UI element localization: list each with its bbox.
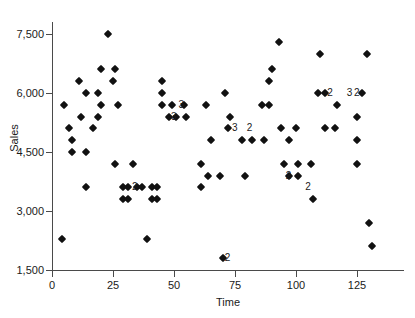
overlap-count-label: 2 <box>354 88 360 98</box>
data-point <box>333 101 341 109</box>
data-point <box>353 136 361 144</box>
data-point <box>248 136 256 144</box>
data-point <box>123 183 131 191</box>
data-point <box>109 77 117 85</box>
data-point <box>226 112 234 120</box>
overlap-count-label: 2 <box>305 182 311 192</box>
data-point <box>153 195 161 203</box>
x-tick-0 <box>52 271 53 277</box>
data-point <box>201 101 209 109</box>
y-tick-label: 6,000 <box>0 88 44 99</box>
overlap-count-label: 3 <box>347 88 353 98</box>
data-point <box>241 171 249 179</box>
data-point <box>82 183 90 191</box>
x-tick-label: 125 <box>337 280 377 291</box>
data-point <box>260 136 268 144</box>
overlap-count-label: 2 <box>225 253 231 263</box>
x-tick-label: 75 <box>215 280 255 291</box>
data-point <box>94 112 102 120</box>
data-point <box>111 65 119 73</box>
data-point <box>309 195 317 203</box>
data-point <box>197 160 205 168</box>
data-point <box>58 234 66 242</box>
data-point <box>82 89 90 97</box>
data-point <box>82 148 90 156</box>
overlap-count-label: 2 <box>247 123 253 133</box>
x-tick-50 <box>174 271 175 277</box>
x-tick-75 <box>235 271 236 277</box>
data-point <box>216 171 224 179</box>
y-tick-label: 4,500 <box>0 147 44 158</box>
overlap-count-label: 2 <box>286 171 292 181</box>
data-point <box>65 124 73 132</box>
data-point <box>158 101 166 109</box>
data-point <box>94 89 102 97</box>
data-point <box>265 101 273 109</box>
data-point <box>292 124 300 132</box>
data-point <box>294 171 302 179</box>
y-tick-7500 <box>46 34 52 35</box>
data-point <box>158 77 166 85</box>
data-point <box>111 160 119 168</box>
y-tick-4500 <box>46 152 52 153</box>
data-point <box>306 160 314 168</box>
data-point <box>104 30 112 38</box>
data-point <box>223 124 231 132</box>
scatter-plot-figure: 1,5003,0004,5006,0007,500 0255075100125 … <box>0 0 415 318</box>
data-point <box>267 65 275 73</box>
data-point <box>67 136 75 144</box>
overlap-count-label: 2 <box>132 182 138 192</box>
x-axis-title: Time <box>52 296 404 308</box>
data-point <box>89 124 97 132</box>
overlap-count-label: 3 <box>232 123 238 133</box>
data-point <box>363 49 371 57</box>
data-point <box>153 183 161 191</box>
data-point <box>265 77 273 85</box>
data-point <box>365 219 373 227</box>
x-tick-label: 100 <box>276 280 316 291</box>
data-point <box>143 234 151 242</box>
y-tick-6000 <box>46 93 52 94</box>
data-point <box>114 101 122 109</box>
data-point <box>294 160 302 168</box>
data-point <box>316 49 324 57</box>
data-point <box>138 183 146 191</box>
plot-area: 1,5003,0004,5006,0007,500 0255075100125 … <box>0 0 415 318</box>
data-point <box>167 101 175 109</box>
x-tick-label: 25 <box>93 280 133 291</box>
overlap-count-label: 3 <box>178 100 184 110</box>
data-point <box>321 124 329 132</box>
data-point <box>123 195 131 203</box>
data-point <box>182 112 190 120</box>
data-point <box>280 160 288 168</box>
overlap-count-label: 3 <box>171 112 177 122</box>
x-tick-label: 0 <box>32 280 72 291</box>
data-point <box>221 89 229 97</box>
data-point <box>204 171 212 179</box>
data-point <box>158 89 166 97</box>
data-point <box>238 136 246 144</box>
data-point <box>353 160 361 168</box>
x-tick-25 <box>113 271 114 277</box>
y-tick-3000 <box>46 211 52 212</box>
data-point <box>67 148 75 156</box>
data-point <box>128 160 136 168</box>
data-point <box>206 136 214 144</box>
data-point <box>275 38 283 46</box>
y-tick-label: 3,000 <box>0 206 44 217</box>
y-axis-title: Sales <box>8 108 20 168</box>
data-point <box>331 124 339 132</box>
y-axis-line <box>52 22 53 271</box>
data-point <box>97 65 105 73</box>
x-tick-100 <box>296 271 297 277</box>
data-point <box>97 101 105 109</box>
data-point <box>284 136 292 144</box>
data-point <box>367 242 375 250</box>
x-axis-line <box>52 270 404 271</box>
data-point <box>277 124 285 132</box>
data-point <box>197 183 205 191</box>
x-tick-125 <box>357 271 358 277</box>
y-tick-label: 7,500 <box>0 29 44 40</box>
data-point <box>75 77 83 85</box>
overlap-count-label: 2 <box>327 88 333 98</box>
